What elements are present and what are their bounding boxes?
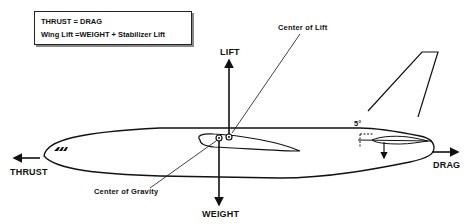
- center-of-lift-leader: [232, 34, 300, 133]
- weight-label: WEIGHT: [202, 209, 239, 219]
- center-of-gravity-leader: [150, 141, 216, 188]
- center-of-gravity-label: Center of Gravity: [94, 187, 158, 196]
- aircraft-drawing: [0, 0, 468, 224]
- drag-label: DRAG: [433, 160, 460, 170]
- stabilizer-angle-label: 5°: [354, 119, 362, 128]
- center-of-lift-label: Center of Lift: [278, 23, 327, 32]
- aircraft-forces-diagram: THRUST = DRAG Wing Lift =WEIGHT + Stabil…: [0, 0, 468, 224]
- fuselage: [44, 128, 434, 178]
- lift-label: LIFT: [220, 47, 240, 57]
- vertical-tail: [368, 52, 438, 117]
- cockpit-windows: [54, 147, 68, 151]
- thrust-label: THRUST: [10, 167, 48, 177]
